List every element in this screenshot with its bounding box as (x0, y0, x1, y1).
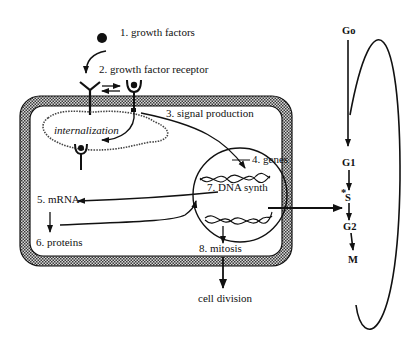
cell-cycle-arrows (348, 40, 353, 250)
label-signal-production: 3. signal production (166, 108, 254, 119)
label-dna-synth: 7. DNA synth (207, 182, 268, 193)
phase-g2: G2 (343, 222, 356, 233)
label-internalization: internalization (54, 125, 119, 136)
label-mrna: 5. mRNA (37, 194, 80, 205)
cell-cycle-loop (350, 40, 400, 329)
equilibrium-arrows (102, 86, 120, 91)
phase-m: M (348, 255, 358, 266)
label-mitosis: 8. mitosis (199, 243, 242, 254)
phase-g0: Go (342, 26, 355, 37)
phase-s: S (345, 193, 351, 204)
label-proteins: 6. proteins (36, 237, 82, 248)
phase-g1: G1 (342, 158, 355, 169)
label-growth-factors: 1. growth factors (120, 27, 195, 38)
growth-factor-icon (97, 33, 107, 43)
label-growth-factor-receptor: 2. growth factor receptor (99, 64, 208, 75)
diagram-canvas: 1. growth factors 2. growth factor recep… (0, 0, 418, 357)
label-cell-division: cell division (198, 293, 252, 304)
label-genes: 4. genes (252, 154, 288, 165)
